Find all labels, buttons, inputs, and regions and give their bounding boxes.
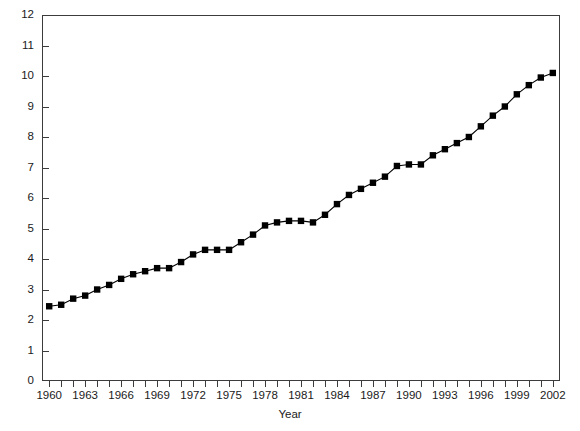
data-point-marker [430,152,436,158]
data-point-marker [214,247,220,253]
data-point-marker [130,271,136,277]
data-point-marker [166,265,172,271]
data-point-marker [238,239,244,245]
x-tick-mark [217,381,218,387]
x-tick-label: 1996 [468,390,494,402]
x-tick-mark [61,381,62,387]
data-point-marker [502,103,508,109]
data-point-marker [118,276,124,282]
y-tick-label: 2 [6,314,34,326]
x-tick-label: 1990 [396,390,422,402]
data-point-marker [538,74,544,80]
x-tick-mark [385,381,386,387]
x-axis-title: Year [0,408,580,420]
x-tick-label: 1978 [252,390,278,402]
data-point-marker [526,82,532,88]
x-tick-mark [85,381,86,387]
x-tick-mark [229,381,230,387]
x-tick-label: 1960 [36,390,62,402]
x-tick-mark [457,381,458,387]
data-point-marker [250,231,256,237]
data-point-marker [178,259,184,265]
x-tick-mark [133,381,134,387]
y-tick-label: 11 [6,40,34,52]
x-tick-mark [97,381,98,387]
x-tick-mark [109,381,110,387]
x-tick-mark [73,381,74,387]
x-tick-mark [265,381,266,387]
x-tick-mark [145,381,146,387]
x-tick-mark [493,381,494,387]
x-tick-mark [421,381,422,387]
x-tick-label: 1987 [360,390,386,402]
x-tick-label: 1972 [180,390,206,402]
x-tick-mark [169,381,170,387]
x-tick-label: 2002 [540,390,566,402]
y-tick-label: 8 [6,131,34,143]
data-point-marker [46,303,52,309]
x-tick-mark [373,381,374,387]
data-point-marker [394,163,400,169]
x-tick-mark [253,381,254,387]
x-tick-label: 1981 [288,390,314,402]
y-tick-label: 6 [6,192,34,204]
x-tick-label: 1993 [432,390,458,402]
x-tick-label: 1966 [108,390,134,402]
x-tick-label: 1969 [144,390,170,402]
x-tick-mark [325,381,326,387]
data-point-marker [406,161,412,167]
y-tick-label: 9 [6,101,34,113]
y-tick-label: 0 [6,375,34,387]
data-point-marker [478,123,484,129]
data-point-marker [70,295,76,301]
data-series-line [42,15,560,381]
x-tick-label: 1963 [72,390,98,402]
x-tick-mark [553,381,554,387]
data-point-marker [274,219,280,225]
x-tick-mark [361,381,362,387]
data-point-marker [94,286,100,292]
y-tick-label: 7 [6,162,34,174]
y-tick-label: 4 [6,253,34,265]
data-point-marker [190,251,196,257]
data-point-marker [334,201,340,207]
x-tick-mark [313,381,314,387]
data-point-marker [490,112,496,118]
data-point-marker [310,219,316,225]
data-point-marker [346,192,352,198]
data-point-marker [202,247,208,253]
x-tick-label: 1999 [504,390,530,402]
x-tick-mark [121,381,122,387]
x-tick-mark [481,381,482,387]
data-point-marker [322,212,328,218]
x-tick-mark [157,381,158,387]
data-point-marker [442,146,448,152]
x-tick-mark [301,381,302,387]
data-point-marker [142,268,148,274]
data-point-marker [106,282,112,288]
y-tick-label: 1 [6,345,34,357]
data-point-marker [286,218,292,224]
data-point-marker [262,222,268,228]
x-tick-mark [541,381,542,387]
data-point-marker [298,218,304,224]
x-tick-mark [433,381,434,387]
data-point-marker [58,302,64,308]
data-point-marker [226,247,232,253]
x-tick-mark [397,381,398,387]
x-tick-mark [289,381,290,387]
x-tick-label: 1975 [216,390,242,402]
x-tick-mark [517,381,518,387]
x-tick-mark [193,381,194,387]
x-tick-mark [205,381,206,387]
data-point-marker [454,140,460,146]
x-tick-mark [529,381,530,387]
x-tick-mark [241,381,242,387]
y-tick-label: 12 [6,9,34,21]
data-point-marker [382,173,388,179]
y-tick-label: 5 [6,223,34,235]
data-point-marker [418,161,424,167]
series-polyline [49,73,553,306]
x-tick-mark [445,381,446,387]
chart-container: 0123456789101112 19601963196619691972197… [0,0,580,431]
